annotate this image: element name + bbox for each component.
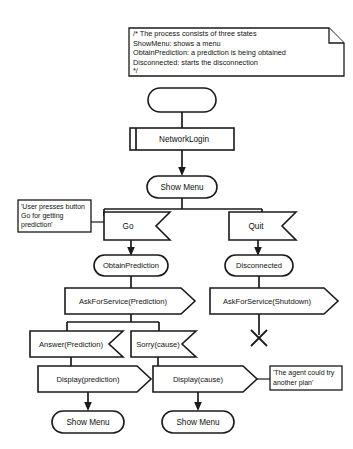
edge-quit-to-disconnected: [254, 240, 262, 256]
comment-line-3: ObtainPrediction: a prediction is being …: [133, 48, 286, 57]
arrow-head: [178, 167, 186, 176]
display-cause-node: Display(cause): [153, 366, 257, 392]
display-cause-label: Display(cause): [173, 375, 224, 384]
show-menu-left-label: Show Menu: [66, 418, 110, 427]
note-another-plan-line-2: another plan': [273, 379, 313, 387]
arrow-head: [84, 402, 92, 411]
go-label: Go: [123, 222, 134, 231]
comment-line-1: /* The process consists of three states: [133, 29, 257, 38]
comment-line-2: ShowMenu: shows a menu: [133, 39, 221, 48]
edge-networklogin-to-showmenu: [178, 150, 186, 176]
arrow-head: [194, 402, 202, 411]
askforservice-shutdown-label: AskForService(Shutdown): [223, 297, 312, 306]
comment-box-fold: [329, 28, 344, 43]
answer-prediction-node: Answer(Prediction): [30, 331, 123, 357]
sorry-cause-label: Sorry(cause): [136, 340, 180, 349]
show-menu-top-label: Show Menu: [160, 183, 204, 192]
note-another-plan: 'The agent could try another plan': [257, 366, 342, 390]
quit-node: Quit: [229, 212, 296, 240]
start-node-shape: [148, 88, 216, 112]
edge-displayprediction-to-showmenuleft: [84, 392, 92, 411]
start-node: [148, 88, 216, 112]
show-menu-right-label: Show Menu: [176, 418, 220, 427]
note-user-presses-line-3: prediction': [21, 221, 53, 229]
diagram-svg: /* The process consists of three states …: [0, 0, 353, 449]
show-menu-left-node: Show Menu: [52, 411, 124, 433]
note-user-presses-line-2: Go for getting: [21, 212, 64, 220]
askforservice-prediction-label: AskForService(Prediction): [79, 297, 168, 306]
display-prediction-label: Display(prediction): [57, 375, 120, 384]
quit-label: Quit: [248, 222, 264, 231]
comment-line-4: Disconnected: starts the disconnection: [133, 58, 258, 67]
go-shape: [104, 212, 170, 240]
display-prediction-node: Display(prediction): [38, 366, 151, 392]
networklogin-node: NetworkLogin: [130, 128, 234, 150]
askforservice-shutdown-node: AskForService(Shutdown): [210, 288, 338, 314]
activity-diagram-canvas: /* The process consists of three states …: [0, 0, 353, 449]
obtainprediction-label: ObtainPrediction: [103, 261, 159, 270]
disconnected-node: Disconnected: [225, 255, 293, 276]
edge-displaycause-to-showmenuright: [194, 392, 202, 411]
askforservice-prediction-node: AskForService(Prediction): [65, 288, 195, 314]
networklogin-label: NetworkLogin: [159, 135, 210, 144]
sorry-cause-node: Sorry(cause): [131, 331, 196, 357]
show-menu-top-node: Show Menu: [147, 176, 217, 198]
go-node: Go: [104, 212, 170, 240]
note-another-plan-line-1: 'The agent could try: [273, 369, 335, 377]
answer-prediction-label: Answer(Prediction): [39, 340, 104, 349]
edge-go-to-obtainprediction: [127, 240, 135, 256]
note-user-presses-button: 'User presses button Go for getting pred…: [18, 200, 104, 232]
disconnected-label: Disconnected: [236, 261, 282, 270]
obtainprediction-node: ObtainPrediction: [94, 255, 168, 276]
note-user-presses-line-1: 'User presses button: [21, 203, 85, 211]
fork-askprediction-to-answer-sorry: [67, 314, 159, 331]
comment-box: /* The process consists of three states …: [129, 28, 344, 76]
show-menu-right-node: Show Menu: [162, 411, 234, 433]
